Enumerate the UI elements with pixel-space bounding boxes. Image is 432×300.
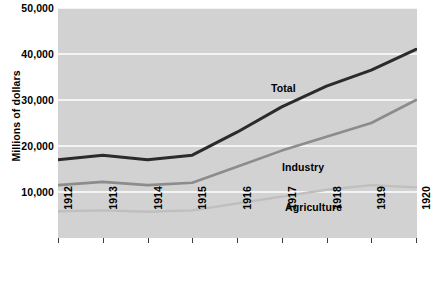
series-line-total: [58, 49, 416, 159]
series-line-industry: [58, 100, 416, 185]
x-tick-label-1916: 1916: [241, 186, 253, 246]
x-tick-label-1915: 1915: [196, 186, 208, 246]
x-tick-label-1917: 1917: [286, 186, 298, 246]
x-tick-1918: [327, 238, 328, 243]
x-tick-1912: [58, 238, 59, 243]
series-label-industry: Industry: [282, 161, 324, 173]
y-axis-title: Millions of dollars: [10, 6, 22, 226]
x-axis: 191219131914191519161917191819191920: [58, 238, 417, 300]
x-tick-label-1918: 1918: [331, 186, 343, 246]
y-axis-tick-labels: 50,000 40,000 30,000 20,000 10,000: [0, 0, 54, 300]
x-tick-1919: [371, 238, 372, 243]
x-tick-1916: [237, 238, 238, 243]
gridlines: [58, 8, 417, 192]
x-tick-label-1920: 1920: [420, 186, 432, 246]
x-tick-1917: [282, 238, 283, 243]
x-tick-1913: [103, 238, 104, 243]
series-label-total: Total: [271, 82, 296, 94]
x-tick-label-1913: 1913: [107, 186, 119, 246]
x-tick-1915: [192, 238, 193, 243]
x-tick-1914: [148, 238, 149, 243]
x-tick-label-1919: 1919: [375, 186, 387, 246]
x-tick-label-1914: 1914: [152, 186, 164, 246]
x-tick-1920: [416, 238, 417, 243]
x-tick-label-1912: 1912: [62, 186, 74, 246]
